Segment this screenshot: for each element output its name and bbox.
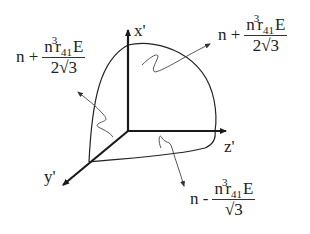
annotation-top-right-prefix: n + [218,25,240,45]
ellipsoid-top-arc [89,43,216,162]
bottom-face-pointer [159,136,184,186]
annotation-bottom-prefix: n - [190,189,208,209]
y-axis-label: y' [44,168,56,185]
annotation-top-right-numerator: n3r41E [244,16,287,36]
annotation-top-right: n + n3r41E 2√3 [218,16,287,55]
annotation-bottom-fraction: n3r41E √3 [212,180,255,219]
annotation-left: n + n3r41E 2√3 [16,38,85,77]
annotation-left-denominator: 2√3 [51,58,77,77]
x-axis-label: x' [134,22,146,39]
annotation-bottom-denominator: √3 [225,200,243,219]
index-ellipsoid-diagram: x' z' y' n + n3r41E 2√3 n + n3r41E 2√3 n… [0,0,310,234]
annotation-bottom: n - n3r41E √3 [190,180,255,219]
annotation-left-prefix: n + [16,47,38,67]
annotation-bottom-numerator: n3r41E [212,180,255,200]
annotation-left-fraction: n3r41E 2√3 [42,38,85,77]
annotation-top-right-denominator: 2√3 [253,36,279,55]
y-axis-line [63,131,128,185]
top-face-pointer [142,44,210,72]
annotation-top-right-fraction: n3r41E 2√3 [244,16,287,55]
annotation-left-numerator: n3r41E [42,38,85,58]
z-axis-label: z' [224,138,235,155]
